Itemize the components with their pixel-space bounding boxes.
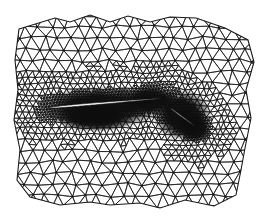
mesh-node <box>140 24 142 26</box>
mesh-node <box>232 27 234 29</box>
mesh-node <box>167 184 169 186</box>
mesh-node <box>253 13 255 15</box>
dense-mesh-blob <box>55 104 135 132</box>
mesh-node <box>252 196 254 198</box>
mesh-node <box>55 171 57 173</box>
mesh-node <box>266 217 268 218</box>
mesh-node <box>211 81 213 83</box>
mesh-node <box>135 59 137 61</box>
mesh-node <box>29 171 31 173</box>
mesh-node <box>13 139 15 141</box>
mesh-node <box>218 48 220 50</box>
mesh-node <box>64 182 66 184</box>
mesh-node <box>19 59 21 61</box>
mesh-node <box>57 60 59 62</box>
mesh-node <box>19 38 21 40</box>
mesh-node <box>213 15 215 17</box>
mesh-node <box>141 185 143 187</box>
mesh-node <box>57 194 59 196</box>
mesh-node <box>101 162 103 164</box>
mesh-node <box>36 26 38 28</box>
mesh-node <box>205 47 207 49</box>
mesh-node <box>161 217 163 218</box>
mesh-node <box>63 27 65 29</box>
mesh-node <box>43 193 45 195</box>
mesh-node <box>136 149 138 151</box>
mesh-node <box>84 149 86 151</box>
mesh-node <box>225 38 227 40</box>
mesh-node <box>44 216 46 218</box>
mesh-node <box>0 162 2 164</box>
mesh-node <box>63 5 65 7</box>
mesh-node <box>13 71 15 73</box>
mesh-node <box>188 60 190 62</box>
mesh-node <box>172 215 174 217</box>
mesh-node <box>246 71 248 73</box>
mesh-node <box>128 2 130 4</box>
mesh-node <box>175 149 177 151</box>
mesh-node <box>172 37 174 39</box>
mesh-node <box>104 70 106 72</box>
mesh-node <box>70 36 72 38</box>
mesh-node <box>123 61 125 63</box>
mesh-node <box>200 173 202 175</box>
mesh-node <box>154 182 156 184</box>
mesh-node <box>244 48 246 50</box>
mesh-node <box>71 148 73 150</box>
mesh-node <box>148 173 150 175</box>
mesh-node <box>213 106 215 108</box>
mesh-node <box>95 173 97 175</box>
mesh-node <box>77 50 79 52</box>
mesh-node <box>259 92 261 94</box>
mesh-node <box>226 103 228 105</box>
mesh-node <box>168 26 170 28</box>
mesh-node <box>245 160 247 162</box>
mesh-node <box>32 105 34 107</box>
mesh-node <box>228 148 230 150</box>
mesh-node <box>12 117 14 119</box>
mesh-node <box>39 139 41 141</box>
mesh-node <box>153 24 155 26</box>
mesh-node <box>90 138 92 140</box>
mesh-node <box>49 49 51 51</box>
mesh-node <box>136 39 138 41</box>
mesh-node <box>56 149 58 151</box>
mesh-node <box>19 126 21 128</box>
mesh-node <box>155 49 157 51</box>
mesh-node <box>226 217 228 218</box>
mesh-node <box>239 16 241 18</box>
mesh-node <box>3 172 5 174</box>
mesh-node <box>108 83 110 85</box>
mesh-node <box>134 195 136 197</box>
mesh-node <box>75 71 77 73</box>
mesh-node <box>108 58 110 60</box>
mesh-node <box>84 83 86 85</box>
mesh-node <box>44 15 46 17</box>
mesh-node <box>101 27 103 29</box>
mesh-node <box>227 59 229 61</box>
mesh-node <box>141 160 143 162</box>
mesh-node <box>214 173 216 175</box>
mesh-node <box>51 71 53 73</box>
mesh-node <box>50 3 52 5</box>
mesh-node <box>96 36 98 38</box>
mesh-node <box>174 59 176 61</box>
mesh-node <box>32 193 34 195</box>
mesh-node <box>232 48 234 50</box>
mesh-node <box>88 183 90 185</box>
mesh-node <box>127 182 129 184</box>
mesh-node <box>265 13 267 15</box>
mesh-node <box>270 47 271 49</box>
mesh-node <box>0 94 1 96</box>
mesh-node <box>192 72 194 74</box>
mesh-node <box>220 70 222 72</box>
mesh-node <box>206 72 208 74</box>
mesh-node <box>252 171 254 173</box>
mesh-node <box>65 71 67 73</box>
mesh-node <box>251 80 253 82</box>
mesh-node <box>55 81 57 83</box>
mesh-node <box>25 69 27 71</box>
mesh-node <box>181 69 183 71</box>
mesh-node <box>213 36 215 38</box>
mesh-node <box>231 69 233 71</box>
